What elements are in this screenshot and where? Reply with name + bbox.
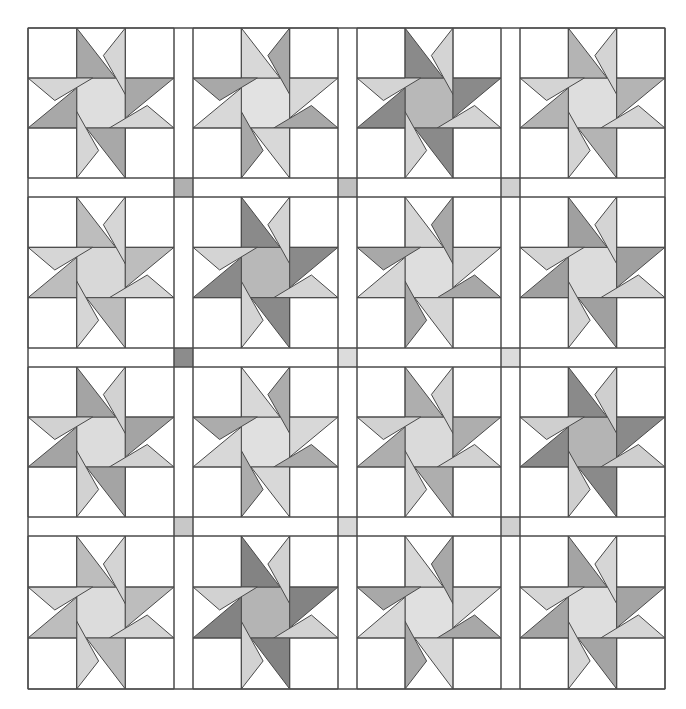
cornerstone [174,517,193,536]
cornerstone [174,348,193,367]
cornerstone [174,178,193,197]
star-center [241,247,289,297]
star-block [520,28,665,178]
star-block [28,28,174,178]
star-block [193,367,338,517]
star-center [77,247,126,297]
star-center [405,587,453,638]
star-center [405,78,453,128]
star-block [520,536,665,689]
cornerstone [501,517,520,536]
star-block [28,367,174,517]
star-block [28,536,174,689]
star-center [568,587,616,638]
star-center [77,587,126,638]
star-block [193,28,338,178]
star-center [568,78,616,128]
star-center [77,417,126,467]
star-block [357,536,501,689]
cornerstone [338,178,357,197]
star-center [405,247,453,297]
cornerstone [338,348,357,367]
star-center [241,587,289,638]
star-block [357,197,501,348]
star-center [241,417,289,467]
star-block [520,197,665,348]
star-block [357,28,501,178]
star-block [193,197,338,348]
cornerstone [338,517,357,536]
star-center [241,78,289,128]
star-block [193,536,338,689]
star-block [520,367,665,517]
cornerstone [501,178,520,197]
star-center [568,417,616,467]
star-block [357,367,501,517]
cornerstone [501,348,520,367]
quilt-diagram [0,0,686,709]
star-center [77,78,126,128]
star-center [405,417,453,467]
star-center [568,247,616,297]
star-block [28,197,174,348]
